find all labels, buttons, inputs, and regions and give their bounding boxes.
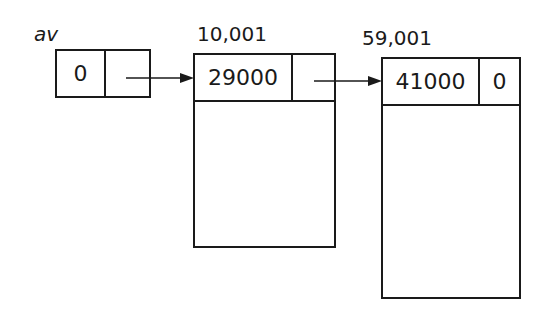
arrow-icon xyxy=(314,76,382,86)
arrow-icon xyxy=(126,73,194,83)
pointer-arrows xyxy=(0,0,546,315)
